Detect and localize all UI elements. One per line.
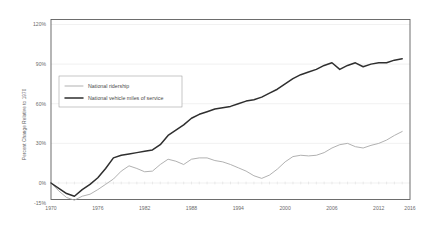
chart-canvas: Percent Change Relative to 1970 120%90%6… [0,0,430,228]
y-tick-label: 120% [33,21,46,27]
y-tick-label: 60% [36,101,47,107]
plot-area-border [51,20,410,200]
x-tick-label: 2006 [326,205,337,211]
y-tick-label: 90% [36,61,47,67]
legend-label-0: National ridership [88,83,129,89]
x-tick-label: 2016 [404,205,415,211]
x-tick-label: 1982 [139,205,150,211]
chart-legend: National ridershipNational vehicle miles… [59,76,182,107]
x-tick-label: 2000 [279,205,290,211]
x-tick-label: 2012 [373,205,384,211]
y-axis-title: Percent Change Relative to 1970 [22,88,27,160]
y-tick-label: 30% [36,140,47,146]
series-line-national-ridership [51,131,402,200]
x-tick-label: 1976 [92,205,103,211]
x-axis-tick-labels: 197019761982198819942000200620122016 [45,205,415,211]
x-tick-label: 1988 [186,205,197,211]
legend-label-1: National vehicle miles of service [88,95,163,101]
x-tick-label: 1994 [233,205,244,211]
y-tick-label: 0% [39,180,47,186]
legend-box [59,76,182,107]
y-axis-tick-labels: 120%90%60%30%0%-15% [33,21,46,205]
x-tick-label: 1970 [45,205,56,211]
line-chart: Percent Change Relative to 1970 120%90%6… [0,0,430,228]
